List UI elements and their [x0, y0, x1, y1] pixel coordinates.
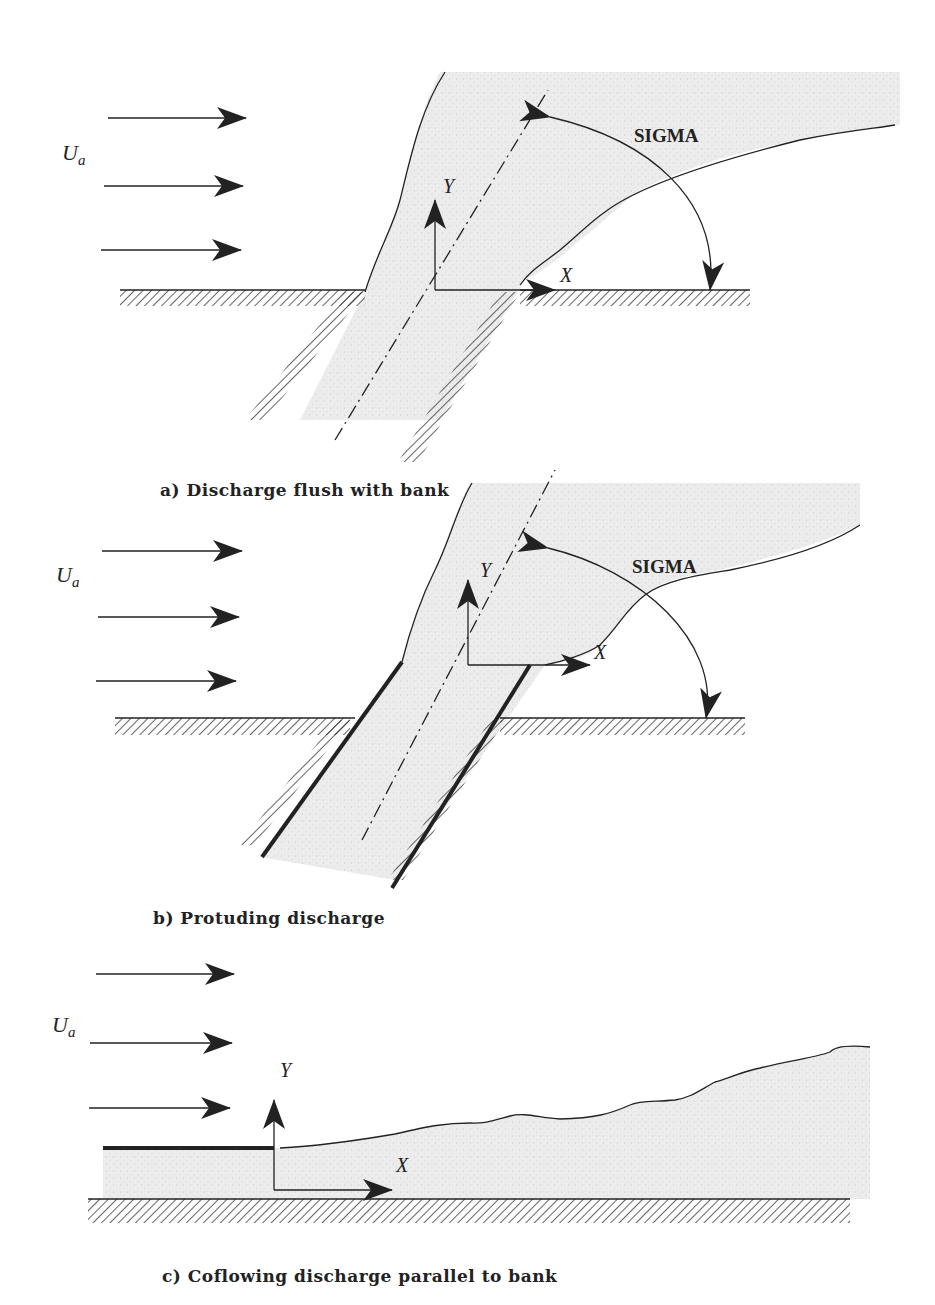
caption-panel-b: b) Protuding discharge	[153, 908, 385, 928]
x-axis-label-a: X	[559, 264, 573, 286]
x-axis-label-c: X	[395, 1154, 409, 1176]
plume-a	[300, 72, 900, 420]
sigma-label-b: SIGMA	[632, 556, 697, 577]
ambient-velocity-label-a: Ua	[62, 140, 85, 168]
panel-a-flush-discharge: Y X SIGMA Ua	[62, 72, 900, 462]
y-axis-label-b: Y	[480, 559, 493, 581]
sigma-label-a: SIGMA	[634, 125, 699, 146]
ambient-velocity-label-c: Ua	[52, 1012, 75, 1040]
caption-panel-c: c) Coflowing discharge parallel to bank	[162, 1266, 557, 1286]
ambient-velocity-label-b: Ua	[56, 562, 79, 590]
discharge-configurations-figure: Y X SIGMA Ua Y X SIGMA	[0, 0, 935, 1305]
x-axis-label-b: X	[593, 641, 607, 663]
y-axis-label-c: Y	[280, 1059, 293, 1081]
y-axis-label-a: Y	[443, 175, 456, 197]
caption-panel-a: a) Discharge flush with bank	[160, 480, 449, 500]
panel-b-protruding-discharge: Y X SIGMA Ua	[56, 470, 860, 888]
panel-c-coflowing-discharge: Y X Ua	[52, 974, 870, 1223]
